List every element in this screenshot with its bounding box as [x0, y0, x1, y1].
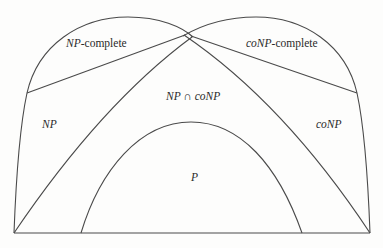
- complexity-diagram: NP-complete coNP-complete NP ∩ coNP NP c…: [0, 0, 383, 248]
- label-conp: coNP: [316, 119, 342, 131]
- label-intersection: NP ∩ coNP: [166, 91, 220, 103]
- intersection-right-boundary: [184, 35, 370, 233]
- label-np: NP: [42, 119, 57, 131]
- label-conp-complete: coNP-complete: [246, 38, 318, 50]
- intersection-left-boundary: [14, 37, 192, 233]
- label-np-complete: NP-complete: [66, 38, 127, 50]
- label-p: P: [191, 172, 198, 184]
